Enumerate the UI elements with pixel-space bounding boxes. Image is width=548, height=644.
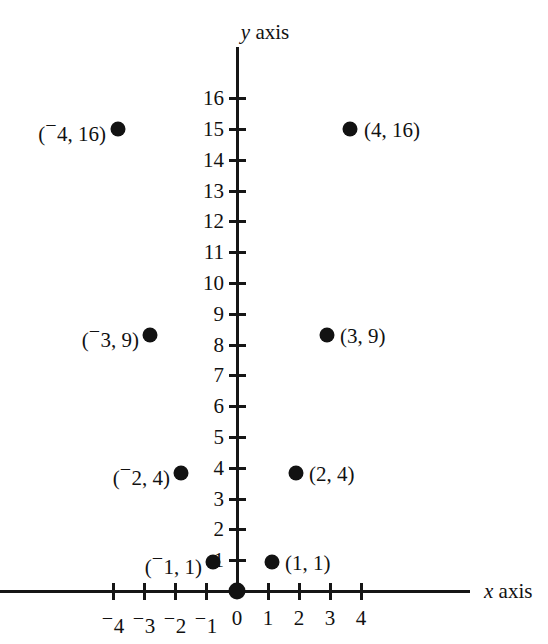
y-axis-tick — [229, 374, 246, 377]
raised-minus-glyph: − — [89, 320, 100, 342]
data-point-label: (−4, 16) — [38, 115, 106, 144]
raised-minus-glyph: − — [195, 607, 206, 629]
x-axis-tick — [205, 583, 208, 600]
y-axis-tick-label: 7 — [214, 365, 225, 386]
y-axis-tick — [229, 405, 246, 408]
origin-tick-label: 0 — [232, 608, 243, 629]
y-axis-tick — [229, 190, 246, 193]
raised-minus-glyph: − — [164, 607, 175, 629]
origin-point — [229, 583, 246, 600]
data-point-label: (1, 1) — [285, 553, 331, 574]
data-point-label: (−3, 9) — [82, 321, 139, 350]
y-axis-tick — [229, 251, 246, 254]
y-axis-tick — [229, 128, 246, 131]
y-axis-tick — [229, 159, 246, 162]
x-axis-tick-label: 4 — [356, 608, 367, 629]
x-axis-tick — [174, 583, 177, 600]
y-axis-tick — [229, 467, 246, 470]
y-axis-word: axis — [250, 20, 289, 44]
raised-minus-glyph: − — [102, 607, 113, 629]
x-axis-tick-label: 2 — [294, 608, 305, 629]
y-axis-tick-label: 12 — [203, 211, 224, 232]
x-axis-tick — [143, 583, 146, 600]
y-axis-tick — [229, 528, 246, 531]
coordinate-plane-figure: y axis x axis 12345678910111213141516 −4… — [0, 0, 548, 644]
data-point — [289, 466, 304, 481]
y-axis-tick — [229, 282, 246, 285]
x-axis-word: axis — [493, 579, 532, 603]
x-axis-tick-label: −2 — [164, 608, 186, 637]
y-axis-tick-label: 15 — [203, 119, 224, 140]
data-point — [320, 328, 335, 343]
data-point-label: (−2, 4) — [113, 459, 170, 488]
y-axis-tick-label: 13 — [203, 180, 224, 201]
y-axis-variable: y — [241, 20, 250, 44]
x-axis-tick — [329, 583, 332, 600]
raised-minus-glyph: − — [133, 607, 144, 629]
x-axis-tick — [112, 583, 115, 600]
y-axis-tick-label: 8 — [214, 334, 225, 355]
y-axis-tick — [229, 220, 246, 223]
x-axis-tick-label: −4 — [102, 608, 124, 637]
x-axis-tick-label: −3 — [133, 608, 155, 637]
x-axis-label: x axis — [484, 581, 532, 602]
data-point — [174, 466, 189, 481]
y-axis-tick — [229, 498, 246, 501]
x-axis-tick-label: 1 — [263, 608, 274, 629]
data-point — [265, 555, 280, 570]
data-point — [111, 122, 126, 137]
x-axis-variable: x — [484, 579, 493, 603]
y-axis-tick-label: 10 — [203, 273, 224, 294]
y-axis-tick-label: 4 — [214, 457, 225, 478]
x-axis-tick — [298, 583, 301, 600]
y-axis-tick-label: 3 — [214, 488, 225, 509]
x-axis-tick — [360, 583, 363, 600]
y-axis-tick — [229, 436, 246, 439]
data-point-label: (3, 9) — [340, 326, 386, 347]
x-axis-tick-label: 3 — [325, 608, 336, 629]
y-axis-label: y axis — [241, 22, 289, 43]
data-point — [143, 328, 158, 343]
data-point-label: (4, 16) — [364, 120, 420, 141]
y-axis-tick-label: 2 — [214, 519, 225, 540]
x-axis-tick-label: −1 — [195, 608, 217, 637]
data-point-label: (−1, 1) — [145, 548, 202, 577]
raised-minus-glyph: − — [152, 547, 163, 569]
raised-minus-glyph: − — [45, 114, 56, 136]
y-axis-tick — [229, 97, 246, 100]
y-axis-tick — [229, 559, 246, 562]
y-axis-tick — [229, 313, 246, 316]
y-axis-tick — [229, 344, 246, 347]
raised-minus-glyph: − — [120, 458, 131, 480]
y-axis-tick-label: 5 — [214, 427, 225, 448]
y-axis-tick-label: 11 — [204, 242, 224, 263]
y-axis-tick-label: 16 — [203, 88, 224, 109]
y-axis-tick-label: 14 — [203, 149, 224, 170]
y-axis-tick-label: 6 — [214, 396, 225, 417]
x-axis-tick — [267, 583, 270, 600]
data-point — [343, 122, 358, 137]
y-axis-tick-label: 9 — [214, 303, 225, 324]
data-point — [206, 555, 221, 570]
data-point-label: (2, 4) — [309, 464, 355, 485]
